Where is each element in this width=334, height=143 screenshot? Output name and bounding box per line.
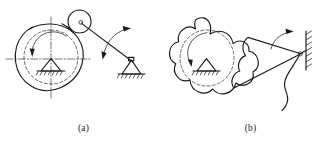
panel-b [170,18,312,111]
follower-pivot-hatching-a [117,74,143,78]
cam-rotation-arrow-head-b [188,59,193,67]
follower-body-b [232,37,300,88]
follower-oscillation-head-b [285,29,293,34]
cam-rotation-arrow-arc-a [32,32,66,51]
caption-panel-a: (a) [0,123,167,133]
cam-rotation-arrow-arc-b [188,33,207,62]
follower-oscillation-head-upper-a [123,26,131,31]
cam-pivot-hatching-b [192,71,218,75]
caption-panel-b: (b) [167,123,334,133]
wall-hatching-b [306,31,312,68]
follower-oscillation-arc-a [104,30,125,54]
cam-rotation-arrow-head-a [30,49,35,57]
cam-profile-a [15,24,83,91]
cam-pivot-hatching-a [36,71,62,75]
spring-return-link-b [282,56,299,111]
cam-mechanisms-diagram [0,0,334,143]
follower-pivot-triangle-a [122,60,141,74]
figure-container: (a) (b) [0,0,334,143]
follower-oscillation-head-lower-a [101,51,106,60]
panel-a [6,10,145,99]
cam-pivot-triangle-b [197,59,216,71]
